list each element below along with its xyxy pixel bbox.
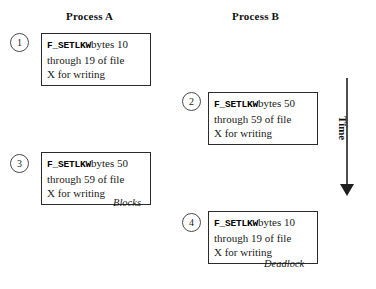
- time-arrow-icon: [340, 184, 354, 196]
- lock-box-1-function: F_SETLKW: [47, 40, 91, 51]
- lock-box-4-line-2: through 19 of file: [214, 231, 312, 245]
- lock-box-4-line-1: F_SETLKWbytes 10: [214, 215, 312, 231]
- column-header-process-a: Process A: [66, 10, 113, 22]
- step-circle-4: 4: [182, 213, 201, 232]
- lock-box-1: F_SETLKWbytes 10 through 19 of file X fo…: [41, 33, 151, 86]
- lock-box-3-line-1: F_SETLKWbytes 50: [47, 156, 145, 172]
- lock-box-2: F_SETLKWbytes 50 through 59 of file X fo…: [208, 92, 318, 145]
- step-circle-1: 1: [10, 33, 29, 52]
- lock-box-3-line-1-text: bytes 50: [91, 157, 128, 169]
- step-circle-3: 3: [10, 154, 29, 173]
- lock-box-3-line-2: through 59 of file: [47, 172, 145, 186]
- lock-box-4-function: F_SETLKW: [214, 218, 258, 229]
- time-axis-label: Time: [337, 116, 349, 140]
- column-header-process-b: Process B: [232, 10, 279, 22]
- annotation-deadlock: Deadlock: [264, 258, 304, 269]
- diagram-canvas: Process A Process B 1 F_SETLKWbytes 10 t…: [0, 0, 376, 289]
- lock-box-1-line-1: F_SETLKWbytes 10: [47, 37, 145, 53]
- lock-box-3-function: F_SETLKW: [47, 159, 91, 170]
- lock-box-4-line-3: X for writing: [214, 245, 312, 259]
- lock-box-1-line-3: X for writing: [47, 67, 145, 81]
- lock-box-2-line-3: X for writing: [214, 126, 312, 140]
- lock-box-2-line-2: through 59 of file: [214, 112, 312, 126]
- annotation-blocks: Blocks: [113, 197, 141, 208]
- step-circle-2: 2: [182, 92, 201, 111]
- lock-box-4: F_SETLKWbytes 10 through 19 of file X fo…: [208, 211, 318, 264]
- lock-box-2-line-1-text: bytes 50: [258, 97, 295, 109]
- lock-box-4-line-1-text: bytes 10: [258, 216, 295, 228]
- lock-box-1-line-1-text: bytes 10: [91, 38, 128, 50]
- lock-box-2-line-1: F_SETLKWbytes 50: [214, 96, 312, 112]
- time-axis: Time: [330, 78, 370, 200]
- lock-box-1-line-2: through 19 of file: [47, 53, 145, 67]
- lock-box-2-function: F_SETLKW: [214, 99, 258, 110]
